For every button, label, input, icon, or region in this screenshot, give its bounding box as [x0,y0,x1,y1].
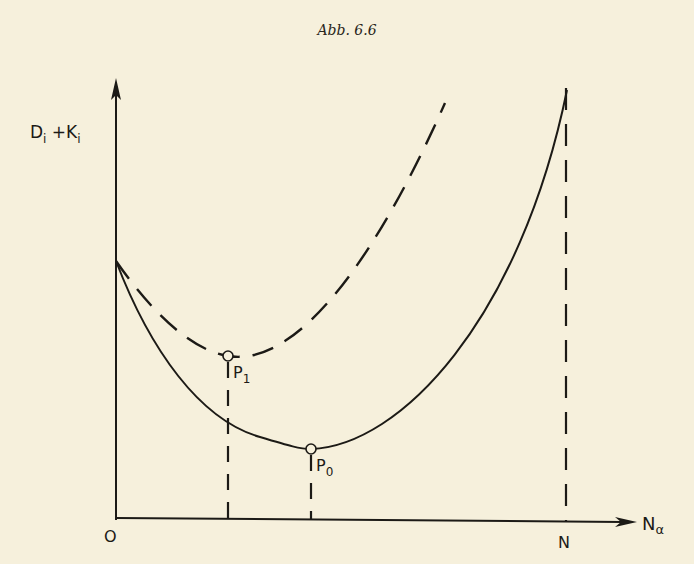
p1-point [223,351,233,361]
n-label: N [558,533,570,552]
x-axis [116,517,637,527]
dashed-curve [116,103,445,357]
y-axis [111,78,121,520]
origin-label: O [104,527,117,546]
p0-label: P0 [316,456,333,479]
y-axis-label: Di +Ki [30,122,81,146]
diagram: Di +Ki P1 P0 O N Nα [0,0,694,564]
solid-curve [116,90,567,449]
p1-label: P1 [233,363,250,386]
x-axis-label: Nα [642,513,664,537]
p0-point [306,444,316,454]
